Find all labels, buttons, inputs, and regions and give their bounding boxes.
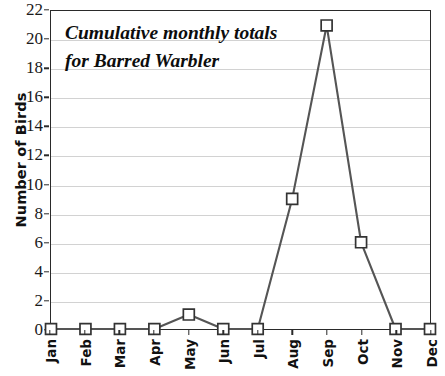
x-axis-tick-label-sep: Sep [320, 339, 336, 368]
x-axis-tick-mark [49, 330, 50, 335]
x-axis-tick-mark [292, 330, 293, 335]
x-axis-tick-mark [361, 330, 362, 335]
x-axis-tick-mark [396, 330, 397, 335]
x-axis-tick-label-jun: Jun [216, 339, 232, 363]
x-axis-tick-labels: JanFebMarAprMayJunJulAugSepOctNovDec [0, 0, 445, 376]
x-axis-tick-label-jan: Jan [43, 339, 59, 363]
x-axis-tick-mark [257, 330, 258, 335]
chart-container: Number of Birds 0246810121416182022 Cumu… [0, 0, 445, 376]
x-axis-tick-mark [430, 330, 431, 335]
x-axis-tick-label-aug: Aug [285, 339, 301, 369]
x-axis-tick-mark [153, 330, 154, 335]
x-axis-tick-label-dec: Dec [424, 339, 440, 367]
x-axis-tick-label-may: May [182, 339, 198, 370]
x-axis-tick-mark [84, 330, 85, 335]
x-axis-tick-label-nov: Nov [389, 339, 405, 368]
x-axis-tick-label-apr: Apr [147, 339, 163, 366]
x-axis-tick-mark [188, 330, 189, 335]
x-axis-tick-label-jul: Jul [251, 339, 267, 358]
x-axis-tick-label-feb: Feb [78, 339, 94, 367]
x-axis-tick-mark [326, 330, 327, 335]
x-axis-tick-label-mar: Mar [112, 339, 128, 368]
x-axis-tick-mark [119, 330, 120, 335]
x-axis-tick-label-oct: Oct [355, 339, 371, 365]
x-axis-tick-mark [222, 330, 223, 335]
